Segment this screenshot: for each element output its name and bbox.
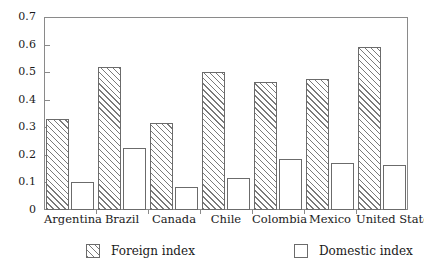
y-tick-label: 0.4 [18, 94, 36, 105]
legend-entry-domestic-index: Domestic index [294, 244, 413, 258]
bar-united-states-domestic-index [383, 165, 406, 210]
legend-label: Domestic index [319, 244, 413, 258]
bars-layer [44, 17, 408, 210]
x-tick-label: Canada [148, 213, 200, 226]
bar-united-states-foreign-index [358, 47, 381, 210]
legend-swatch-hatched-icon [86, 244, 100, 258]
chart-legend: Foreign indexDomestic index [0, 240, 424, 272]
y-tick-label: 0.5 [18, 66, 36, 77]
bar-chile-foreign-index [202, 72, 225, 210]
bar-colombia-foreign-index [254, 82, 277, 210]
bar-colombia-domestic-index [279, 159, 302, 210]
x-tick-label: Colombia [252, 213, 304, 226]
x-tick-label: United States [356, 213, 408, 226]
bar-argentina-domestic-index [71, 182, 94, 210]
legend-swatch-empty-icon [294, 244, 308, 258]
bar-canada-foreign-index [150, 123, 173, 210]
y-tick-label: 0 [29, 204, 36, 215]
bar-mexico-foreign-index [306, 79, 329, 210]
y-tick-label: 0.2 [18, 149, 36, 160]
x-tick-label: Argentina [44, 213, 96, 226]
x-tick-label: Brazil [96, 213, 148, 226]
bar-canada-domestic-index [175, 187, 198, 210]
x-tick-label: Chile [200, 213, 252, 226]
bar-mexico-domestic-index [331, 163, 354, 210]
bar-brazil-foreign-index [98, 67, 121, 210]
y-tick-label: 0.3 [18, 121, 36, 132]
y-tick-label: 0.7 [18, 11, 36, 22]
legend-entry-foreign-index: Foreign index [86, 244, 195, 258]
bar-argentina-foreign-index [46, 119, 69, 210]
bar-chart-figure: 0.70.60.50.40.30.20.10 ArgentinaBrazilCa… [0, 0, 424, 272]
y-tick-label: 0.6 [18, 39, 36, 50]
bar-brazil-domestic-index [123, 148, 146, 210]
y-tick-label: 0.1 [18, 176, 36, 187]
bar-chile-domestic-index [227, 178, 250, 210]
legend-label: Foreign index [111, 244, 195, 258]
x-tick-label: Mexico [304, 213, 356, 226]
y-axis-tick-labels: 0.70.60.50.40.30.20.10 [0, 0, 40, 272]
